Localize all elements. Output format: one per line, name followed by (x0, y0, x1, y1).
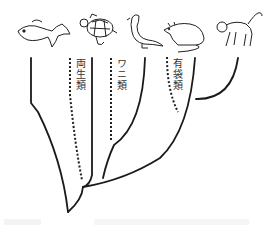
amphibians-label: 両生類 (74, 58, 85, 91)
crocodiles-label: ワニ類 (115, 58, 126, 91)
monkey-branch (196, 58, 238, 99)
fish-icon (18, 20, 70, 47)
tree-svg (0, 0, 274, 231)
turtle-icon (80, 14, 117, 45)
monkey-icon (217, 13, 262, 46)
fish-branch (31, 58, 68, 212)
marsupials-label: 有袋類 (171, 58, 182, 91)
rat-icon (164, 22, 204, 52)
phylogenetic-tree-diagram: 両生類 ワニ類 有袋類 (0, 0, 274, 231)
caption-faded (4, 219, 270, 225)
root-branch (68, 187, 83, 212)
bird-icon (127, 15, 163, 48)
